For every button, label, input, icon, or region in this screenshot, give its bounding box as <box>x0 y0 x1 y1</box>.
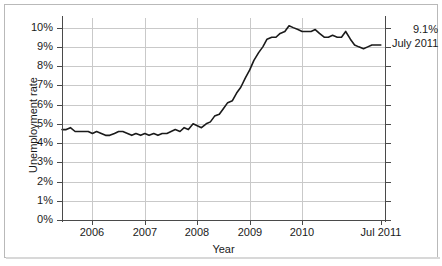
y-axis-tick <box>57 162 63 163</box>
x-axis-tick-label: Jul 2011 <box>341 226 421 238</box>
figure-border-shadow <box>6 257 440 259</box>
x-axis-tick-label: 2010 <box>262 226 342 238</box>
y-axis-tick-right <box>385 124 391 125</box>
plot-area <box>62 18 385 220</box>
y-axis-tick-right <box>385 66 391 67</box>
series-unemployment-rate <box>62 18 385 220</box>
end-point-annotation: 9.1% July 2011 <box>392 22 438 50</box>
y-axis-tick-right <box>385 85 391 86</box>
y-axis-tick-right <box>385 220 391 221</box>
y-axis-tick <box>57 201 63 202</box>
y-axis-tick-right <box>385 201 391 202</box>
x-axis-tick <box>92 220 93 225</box>
y-axis-tick <box>57 220 63 221</box>
y-axis-tick-right <box>385 162 391 163</box>
x-axis-tick <box>197 220 198 225</box>
y-axis-tick <box>57 85 63 86</box>
y-axis-tick <box>57 143 63 144</box>
y-axis-tick <box>57 66 63 67</box>
x-axis-title: Year <box>62 243 385 255</box>
annotation-date: July 2011 <box>392 36 438 50</box>
y-axis-title: Unemployment rate <box>27 50 39 200</box>
x-axis-tick <box>302 220 303 225</box>
y-axis-tick <box>57 124 63 125</box>
y-axis-tick <box>57 28 63 29</box>
chart-figure: 0%1%2%3%4%5%6%7%8%9%10% 2006200720082009… <box>0 0 442 266</box>
x-axis-line <box>58 220 389 221</box>
y-axis-tick-right <box>385 143 391 144</box>
y-axis-tick-right <box>385 28 391 29</box>
y-axis-tick-right <box>385 47 391 48</box>
y-axis-tick-right <box>385 105 391 106</box>
x-axis-tick <box>145 220 146 225</box>
x-axis-tick <box>250 220 251 225</box>
y-axis-tick <box>57 47 63 48</box>
line-unemployment-rate <box>62 26 381 136</box>
y-axis-tick-right <box>385 182 391 183</box>
y-axis-tick <box>57 105 63 106</box>
x-axis-tick <box>381 220 382 225</box>
y-axis-title-wrapper: Unemployment rate <box>14 18 28 220</box>
y-axis-tick <box>57 182 63 183</box>
annotation-value: 9.1% <box>392 22 438 36</box>
